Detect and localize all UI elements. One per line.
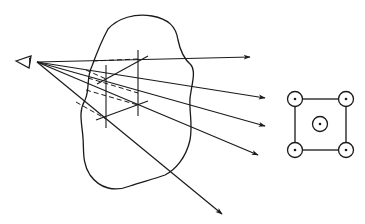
point-top-left [288, 92, 303, 107]
point-top-right [339, 92, 354, 107]
optics-diagram [0, 0, 365, 224]
lens-blob-outline [81, 15, 193, 189]
eye-icon [16, 56, 31, 68]
ray-5 [37, 62, 222, 214]
ray-4 [37, 62, 258, 155]
point-bottom-right [339, 143, 354, 158]
ray-3 [37, 62, 265, 126]
ray-2 [37, 62, 265, 98]
point-center [313, 117, 328, 132]
dashed-construction-lines [76, 59, 138, 119]
point-bottom-left [288, 143, 303, 158]
light-rays [37, 57, 265, 214]
quincunx-pattern [288, 92, 354, 158]
ray-1 [37, 57, 250, 62]
